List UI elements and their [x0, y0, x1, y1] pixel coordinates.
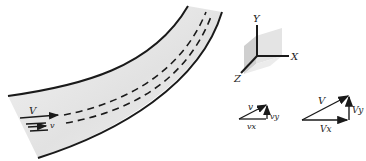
label-small-vy: vy: [270, 112, 280, 121]
label-large-V: V: [318, 95, 327, 106]
label-large-Vy: Vy: [352, 105, 364, 115]
label-y-axis: Y: [253, 13, 261, 24]
label-small-v: v: [248, 102, 253, 112]
curved-pipe: V v: [8, 6, 222, 158]
coordinate-axes: Y X Z: [233, 13, 299, 84]
label-z-axis: Z: [233, 73, 242, 84]
label-v-flow: v: [50, 121, 55, 130]
label-x-axis: X: [290, 51, 299, 62]
pipe-body: [8, 6, 222, 158]
fluid-flow-diagram: V v Y X Z v vx vy V Vx Vy: [0, 0, 366, 161]
large-velocity-triangle: V Vx Vy: [302, 95, 364, 134]
small-velocity-triangle: v vx vy: [239, 102, 280, 131]
label-small-vx: vx: [247, 122, 257, 131]
label-large-Vx: Vx: [320, 124, 332, 134]
